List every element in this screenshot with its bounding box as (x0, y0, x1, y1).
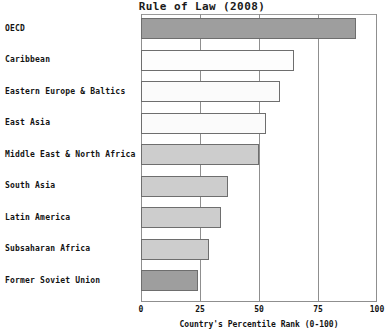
bar-row (141, 176, 377, 197)
x-tick-label: 100 (370, 305, 384, 314)
bar (141, 81, 280, 102)
category-label: East Asia (5, 118, 50, 128)
category-label: Caribbean (5, 55, 50, 65)
category-label: South Asia (5, 181, 55, 191)
bar (141, 50, 294, 71)
bar (141, 207, 221, 228)
bar (141, 18, 356, 39)
category-label: Former Soviet Union (5, 276, 100, 286)
bar (141, 270, 198, 291)
bar (141, 113, 266, 134)
category-label: OECD (5, 24, 25, 34)
x-tick-label: 25 (195, 305, 205, 314)
chart-title: Rule of Law (2008) (0, 0, 390, 13)
bar-row (141, 270, 377, 291)
x-tick-label: 50 (254, 305, 264, 314)
x-tick-label: 0 (139, 305, 144, 314)
x-tick-label: 75 (313, 305, 323, 314)
bar-row (141, 144, 377, 165)
bar (141, 176, 228, 197)
bar-row (141, 50, 377, 71)
bar-row (141, 207, 377, 228)
plot-area (141, 14, 377, 302)
chart-container: Rule of Law (2008) OECDCaribbeanEastern … (0, 0, 390, 335)
chart-title-text: Rule of Law (2008) (139, 0, 265, 13)
category-label: Subsaharan Africa (5, 244, 90, 254)
category-label: Eastern Europe & Baltics (5, 87, 125, 97)
bar-row (141, 239, 377, 260)
x-axis-title: Country's Percentile Rank (0-100) (141, 320, 377, 329)
bar (141, 144, 259, 165)
category-label: Latin America (5, 213, 70, 223)
bar-row (141, 81, 377, 102)
category-label: Middle East & North Africa (5, 150, 135, 160)
bar (141, 239, 209, 260)
bar-row (141, 113, 377, 134)
bar-row (141, 18, 377, 39)
